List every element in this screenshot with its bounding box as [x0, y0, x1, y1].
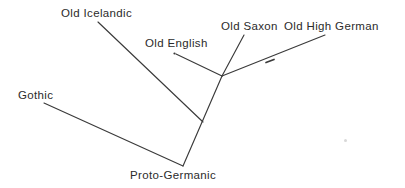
node-label-proto-germanic: Proto-Germanic	[130, 169, 216, 181]
edge-proto-germanic-to-gothic	[44, 103, 183, 166]
node-label-old-saxon: Old Saxon	[221, 20, 278, 32]
node-label-gothic: Gothic	[18, 89, 53, 101]
node-label-old-icelandic: Old Icelandic	[61, 7, 132, 19]
old-english-endpoint-tick	[173, 52, 175, 54]
node-label-old-english: Old English	[145, 37, 208, 49]
scan-artifact-speck	[344, 139, 347, 142]
language-family-tree-figure: Old Icelandic Old English Old Saxon Old …	[0, 0, 405, 188]
edge-west-germanic-to-old-saxon	[222, 35, 244, 76]
edge-west-germanic-to-old-english	[176, 54, 222, 76]
edge-west-germanic-to-old-high-german	[222, 35, 325, 76]
node-label-old-high-german: Old High German	[284, 20, 379, 32]
old-high-german-line-tick	[266, 60, 274, 63]
